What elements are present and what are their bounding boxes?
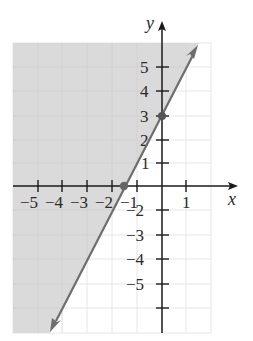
y-tick-label: −3: [126, 226, 144, 245]
y-tick-label: 5: [140, 58, 149, 77]
y-tick-label: −5: [126, 275, 144, 294]
y-tick-label: −4: [126, 250, 145, 269]
y-tick-label: 2: [140, 131, 149, 150]
x-axis-label: x: [227, 189, 236, 209]
y-tick-label: 4: [140, 82, 149, 101]
shaded-region: [13, 43, 199, 333]
x-tick-label: −2: [95, 193, 113, 212]
x-tick-label: 1: [182, 193, 191, 212]
y-tick-label: 3: [140, 107, 149, 126]
y-intercept-point: [158, 112, 166, 120]
y-axis-label: y: [144, 13, 154, 33]
x-tick-label: −5: [20, 193, 38, 212]
y-tick-label: 1: [141, 154, 150, 173]
x-intercept-point: [120, 182, 128, 190]
x-tick-label: −3: [70, 193, 88, 212]
y-tick-label: −2: [126, 201, 144, 220]
x-tick-label: −4: [45, 193, 64, 212]
graph: −5 −4 −3 −2 −1 1 x 5 4 3 2 1 −2 −3 −4 −5: [0, 0, 253, 341]
